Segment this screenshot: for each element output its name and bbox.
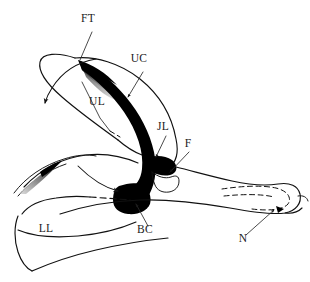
lower-tip-shading xyxy=(14,155,96,196)
label-ul: UL xyxy=(89,95,105,107)
leader-n xyxy=(246,210,274,235)
leader-ul-dash xyxy=(110,131,120,137)
label-ll: LL xyxy=(39,222,54,234)
label-jl: JL xyxy=(157,120,169,132)
leader-ft xyxy=(80,32,92,60)
notch-mark xyxy=(276,206,284,213)
figure-canvas: FT UC UL JL F BC LL N xyxy=(0,0,310,282)
label-bc: BC xyxy=(137,223,153,235)
mid-sweep-arrow xyxy=(78,166,118,191)
label-uc: UC xyxy=(131,52,148,64)
anatomical-figure: FT UC UL JL F BC LL N xyxy=(0,0,310,282)
leader-jl xyxy=(156,136,166,157)
label-f: F xyxy=(185,137,192,149)
upper-lamina-outline xyxy=(40,54,177,168)
label-n: N xyxy=(239,232,248,244)
mandible-tip-dashes xyxy=(222,186,290,210)
label-ft: FT xyxy=(81,12,95,24)
basal-cushion xyxy=(113,183,151,214)
